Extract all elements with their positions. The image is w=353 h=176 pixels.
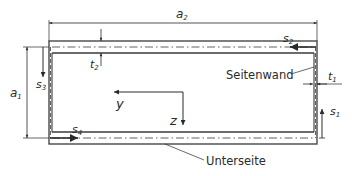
label-a1: a1 <box>10 86 22 101</box>
label-a2: a2 <box>176 7 188 22</box>
unterseite-leader <box>165 144 204 160</box>
label-t2: t2 <box>90 58 99 72</box>
label-s2: s2 <box>283 32 294 46</box>
dimension-a1 <box>23 47 49 138</box>
label-s1: s1 <box>330 105 340 119</box>
label-seitenwand: Seitenwand <box>226 68 293 82</box>
label-t1: t1 <box>328 70 337 84</box>
label-z-axis: z <box>169 113 178 128</box>
box-section-diagram: a2 a1 t2 t1 s1 s2 s3 s4 y z Seitenwand U… <box>0 0 353 176</box>
seitenwand-leader <box>291 67 314 74</box>
label-s4: s4 <box>72 123 82 137</box>
dimension-a2 <box>49 20 317 41</box>
label-unterseite: Unterseite <box>206 154 266 168</box>
label-y-axis: y <box>115 96 124 111</box>
label-s3: s3 <box>36 78 46 92</box>
